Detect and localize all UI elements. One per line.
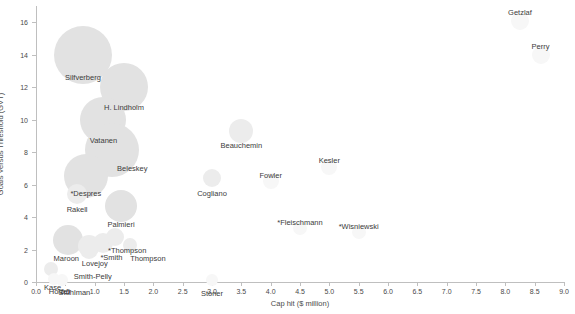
- x-tick-mark: [447, 282, 448, 286]
- x-tick-label: 6.5: [412, 288, 422, 295]
- x-tick-label: 1.0: [90, 288, 100, 295]
- data-point-label: Rakell: [67, 205, 88, 214]
- x-tick-label: 8.5: [530, 288, 540, 295]
- x-tick-mark: [241, 282, 242, 286]
- y-tick-mark: [32, 120, 36, 121]
- y-tick-mark: [32, 152, 36, 153]
- y-tick-mark: [32, 282, 36, 283]
- x-tick-label: 4.5: [295, 288, 305, 295]
- y-tick-mark: [32, 87, 36, 88]
- x-tick-mark: [417, 282, 418, 286]
- data-point-label: Perry: [532, 42, 550, 51]
- y-tick-mark: [32, 55, 36, 56]
- x-tick-mark: [388, 282, 389, 286]
- x-tick-label: 3.5: [236, 288, 246, 295]
- x-tick-label: 5.0: [324, 288, 334, 295]
- data-point-label: Thompson: [130, 254, 165, 263]
- x-tick-label: 7.0: [442, 288, 452, 295]
- data-point-label: *Wisniewski: [339, 222, 379, 231]
- data-point-label: Palmieri: [108, 220, 135, 229]
- y-tick-mark: [32, 22, 36, 23]
- data-point-bubble[interactable]: [106, 228, 124, 246]
- scatter-chart: 0.00.51.01.52.02.53.03.54.04.55.05.56.06…: [0, 0, 575, 314]
- x-tick-label: 8.0: [500, 288, 510, 295]
- y-tick-mark: [32, 217, 36, 218]
- x-tick-mark: [36, 282, 37, 286]
- x-tick-mark: [476, 282, 477, 286]
- x-tick-mark: [300, 282, 301, 286]
- x-tick-label: 9.0: [559, 288, 569, 295]
- x-tick-label: 2.5: [178, 288, 188, 295]
- data-point-label: Smith-Pelly: [74, 272, 112, 281]
- x-tick-mark: [124, 282, 125, 286]
- data-point-bubble[interactable]: [229, 119, 253, 143]
- y-tick-mark: [32, 250, 36, 251]
- x-tick-label: 7.5: [471, 288, 481, 295]
- x-tick-label: 6.0: [383, 288, 393, 295]
- data-point-label: Stuhlman: [59, 288, 91, 297]
- data-point-label: Getzlaf: [508, 8, 532, 17]
- y-tick-mark: [32, 185, 36, 186]
- x-tick-mark: [271, 282, 272, 286]
- data-point-label: H. Lindholm: [104, 103, 144, 112]
- x-tick-mark: [505, 282, 506, 286]
- data-point-bubble[interactable]: [206, 274, 218, 286]
- x-tick-mark: [359, 282, 360, 286]
- x-tick-label: 2.0: [148, 288, 158, 295]
- x-tick-label: 0.0: [31, 288, 41, 295]
- x-tick-mark: [95, 282, 96, 286]
- data-point-bubble[interactable]: [203, 169, 221, 187]
- y-axis-title: Goals Versus Threshold (GVT): [0, 44, 5, 244]
- data-point-label: Silfverberg: [65, 73, 101, 82]
- data-point-label: Cogliano: [197, 189, 227, 198]
- x-tick-mark: [153, 282, 154, 286]
- data-point-label: Maroon: [54, 254, 79, 263]
- x-tick-mark: [183, 282, 184, 286]
- data-point-label: Fowler: [259, 171, 282, 180]
- y-tick-label: 0: [0, 279, 28, 286]
- data-point-label: Stoner: [201, 289, 223, 298]
- data-point-label: *Despres: [70, 189, 101, 198]
- x-tick-label: 4.0: [266, 288, 276, 295]
- x-axis-title: Cap hit ($ million): [36, 299, 564, 308]
- x-tick-label: 5.5: [354, 288, 364, 295]
- y-tick-label: 2: [0, 246, 28, 253]
- data-point-bubble[interactable]: [105, 190, 137, 222]
- data-point-label: Beleskey: [117, 164, 147, 173]
- x-tick-mark: [535, 282, 536, 286]
- x-tick-label: 1.5: [119, 288, 129, 295]
- data-point-label: Vatanen: [90, 136, 117, 145]
- x-tick-mark: [564, 282, 565, 286]
- data-point-label: Beauchemin: [220, 141, 262, 150]
- data-point-label: *Fleischmann: [277, 218, 322, 227]
- x-tick-mark: [329, 282, 330, 286]
- data-point-label: Kesler: [319, 156, 340, 165]
- y-tick-label: 16: [0, 19, 28, 26]
